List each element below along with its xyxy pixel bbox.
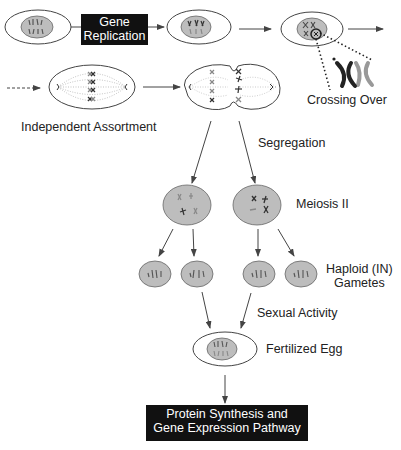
crossing-over-label: Crossing Over — [307, 93, 387, 107]
haploid-gametes-label: Haploid (IN) Gametes — [326, 262, 393, 290]
gene-replication-line2: Replication — [81, 29, 148, 43]
meiosis-ii-label: Meiosis II — [296, 197, 349, 211]
cell-crossing-over — [281, 12, 343, 46]
cell-metaphase-i — [49, 65, 135, 109]
cell-replicated — [167, 10, 231, 44]
diagram-canvas — [0, 0, 401, 450]
independent-assortment-label: Independent Assortment — [21, 120, 157, 134]
haploid-line1: Haploid (IN) — [326, 262, 393, 276]
fertilized-egg-cell — [193, 332, 257, 366]
meiosis-ii-nucleus-left — [163, 185, 211, 225]
protein-synthesis-line1: Protein Synthesis and — [146, 407, 308, 421]
sexual-activity-label: Sexual Activity — [257, 306, 338, 320]
gamete-4 — [285, 261, 317, 287]
protein-synthesis-line2: Gene Expression Pathway — [146, 421, 308, 435]
gamete-1 — [139, 261, 171, 287]
haploid-line2: Gametes — [326, 276, 393, 290]
segregation-label: Segregation — [258, 136, 325, 150]
cell-initial — [5, 10, 71, 44]
crossing-over-chromosomes — [337, 63, 372, 86]
cell-anaphase-i — [184, 64, 280, 109]
gene-replication-box: Gene Replication — [81, 14, 148, 45]
gamete-3 — [243, 261, 275, 287]
meiosis-ii-nucleus-right — [233, 185, 281, 225]
protein-synthesis-box: Protein Synthesis and Gene Expression Pa… — [146, 405, 308, 441]
gene-replication-line1: Gene — [81, 15, 148, 29]
fertilized-egg-label: Fertilized Egg — [266, 342, 342, 356]
gamete-2 — [181, 261, 213, 287]
